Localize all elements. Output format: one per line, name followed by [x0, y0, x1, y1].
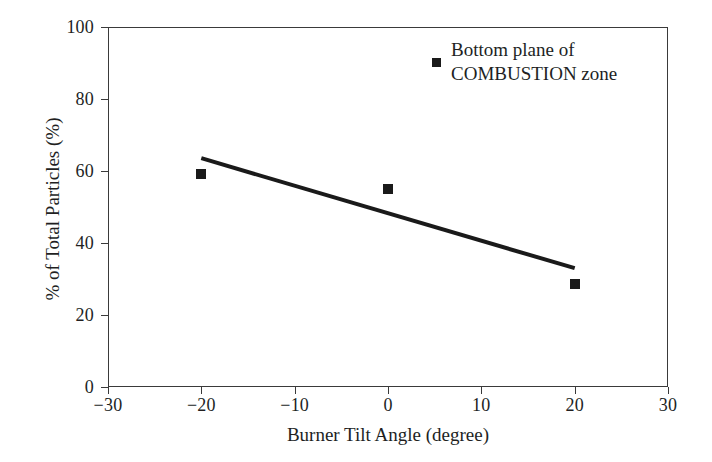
data-point-marker — [383, 184, 393, 194]
legend-label-line2: COMBUSTION zone — [451, 63, 617, 84]
data-point-marker — [570, 279, 580, 289]
chart-figure: 0 20 40 60 80 100 −30 −20 −10 0 10 20 30… — [0, 0, 712, 462]
legend-label-line1: Bottom plane of — [451, 39, 574, 60]
legend-label: Bottom plane ofCOMBUSTION zone — [451, 38, 617, 86]
square-marker-icon — [432, 58, 441, 67]
legend: Bottom plane ofCOMBUSTION zone — [432, 38, 617, 86]
data-point-marker — [196, 169, 206, 179]
